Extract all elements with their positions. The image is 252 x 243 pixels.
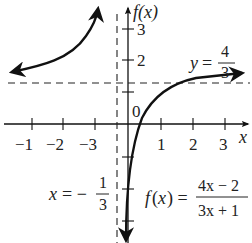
svg-text:=: = bbox=[202, 53, 212, 73]
svg-text:1: 1 bbox=[99, 174, 107, 191]
y-tick-label: 3 bbox=[137, 20, 146, 39]
svg-text:3x + 1: 3x + 1 bbox=[198, 202, 239, 219]
x-tick-label: −1 bbox=[15, 135, 33, 154]
x-tick-label: −3 bbox=[79, 135, 97, 154]
svg-text:4: 4 bbox=[221, 43, 229, 60]
x-tick-label: −2 bbox=[46, 135, 64, 154]
svg-text:x: x bbox=[48, 184, 57, 204]
svg-text:3: 3 bbox=[99, 196, 107, 213]
y-tick-label: 2 bbox=[137, 51, 146, 70]
svg-text:4x − 2: 4x − 2 bbox=[198, 177, 239, 194]
left-branch-curve bbox=[12, 9, 98, 72]
origin-label: 0 bbox=[132, 102, 141, 121]
formula-label: f ( x ) = 4x − 2 3x + 1 bbox=[145, 177, 248, 219]
y-axis-label: f(x) bbox=[133, 2, 158, 23]
x-tick-label: 2 bbox=[189, 135, 198, 154]
function-graph: −1 −2 −3 1 2 3 3 2 0 f(x) x y = 4 3 x = … bbox=[0, 0, 252, 243]
x-tick-label: 3 bbox=[219, 135, 228, 154]
svg-text:= −: = − bbox=[62, 184, 87, 204]
svg-text:y: y bbox=[188, 53, 198, 73]
x-tick-label: 1 bbox=[157, 135, 166, 154]
svg-text:) =: ) = bbox=[167, 188, 188, 209]
x-axis-label: x bbox=[238, 127, 247, 147]
vertical-asymptote-label: x = − 1 3 bbox=[48, 174, 109, 213]
svg-text:3: 3 bbox=[221, 64, 229, 81]
svg-text:x: x bbox=[157, 188, 166, 208]
